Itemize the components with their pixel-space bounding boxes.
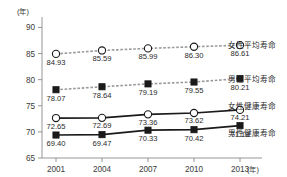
x-tick-label: 2001 (47, 165, 66, 174)
y-tick-label: 80 (26, 76, 36, 85)
y-tick-label: 75 (26, 102, 36, 111)
data-value-label: 79.55 (184, 86, 203, 95)
data-point-marker (144, 45, 151, 52)
data-value-label: 78.64 (92, 91, 111, 100)
data-point-marker (99, 84, 105, 90)
data-value-label: 84.93 (46, 58, 65, 67)
legend-label-3: 男性健康寿命 (228, 128, 276, 138)
y-tick-label: 70 (26, 128, 36, 137)
data-value-label: 70.33 (138, 134, 157, 143)
data-value-label: 86.30 (184, 51, 203, 60)
data-value-label: 73.36 (138, 118, 157, 127)
data-value-label: 72.65 (46, 122, 65, 131)
data-point-marker (191, 79, 197, 85)
data-point-marker (145, 127, 151, 133)
x-axis-unit: (年) (247, 165, 259, 174)
data-point-marker (52, 50, 59, 57)
data-point-marker (191, 127, 197, 133)
x-tick-label: 2010 (185, 165, 204, 174)
legend-label-2: 女性健康寿命 (228, 101, 276, 111)
data-value-label: 85.99 (138, 52, 157, 61)
data-value-label: 69.47 (92, 139, 111, 148)
data-value-label: 85.59 (92, 54, 111, 63)
data-value-label: 86.61 (230, 49, 249, 58)
data-value-labels: 84.9385.5985.9986.3086.6178.0778.6479.19… (46, 49, 249, 148)
chart-plot-area: (年) 657075808590 20012004200720102013 84… (0, 0, 287, 177)
x-tick-label: 2004 (93, 165, 112, 174)
life-expectancy-chart: (年) 657075808590 20012004200720102013 84… (0, 0, 287, 177)
data-value-label: 80.21 (230, 83, 249, 92)
legend-label-0: 女性平均寿命 (228, 40, 276, 50)
data-value-label: 78.07 (46, 94, 65, 103)
y-axis-unit: (年) (17, 7, 29, 16)
y-tick-label: 85 (26, 50, 36, 59)
data-value-label: 79.19 (138, 88, 157, 97)
data-point-marker (98, 47, 105, 54)
y-axis-ticks: 657075808590 (26, 23, 42, 163)
data-value-label: 69.40 (46, 139, 65, 148)
data-value-label: 72.69 (92, 121, 111, 130)
data-point-marker (53, 87, 59, 93)
x-tick-label: 2007 (139, 165, 158, 174)
y-axis-unit-label: (年) (17, 7, 29, 16)
x-axis-ticks: 20012004200720102013 (47, 158, 250, 174)
y-tick-label: 90 (26, 23, 36, 32)
data-point-marker (190, 43, 197, 50)
data-value-label: 73.62 (184, 116, 203, 125)
y-tick-label: 65 (26, 154, 36, 163)
data-point-marker (53, 132, 59, 138)
data-value-label: 74.21 (230, 113, 249, 122)
legend-label-1: 男性平均寿命 (228, 74, 276, 84)
data-point-marker (145, 81, 151, 87)
data-value-label: 70.42 (184, 134, 203, 143)
x-axis-unit-label: (年) (247, 165, 259, 174)
data-point-marker (99, 132, 105, 138)
